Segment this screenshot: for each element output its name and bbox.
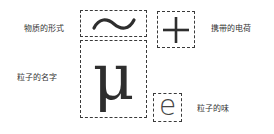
flavor-box: e [153,93,182,122]
e-symbol: e [159,92,176,120]
name-box: μ [80,40,147,118]
mu-symbol: μ [93,45,135,109]
tilde-icon [91,15,137,33]
label-particle-flavor: 粒子的味 [197,104,229,114]
form-box [80,10,147,37]
charge-box [157,11,195,48]
label-form-of-matter: 物质的形式 [24,24,64,34]
label-particle-name: 粒子的名字 [17,73,57,83]
plus-icon [161,15,191,45]
label-charge: 携带的电荷 [211,24,251,34]
